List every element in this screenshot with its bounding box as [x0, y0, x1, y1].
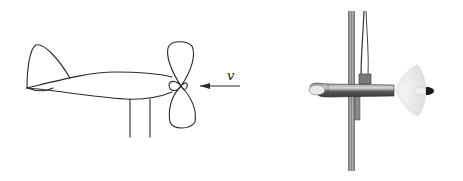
connector	[359, 74, 371, 84]
cable-1	[361, 11, 364, 78]
flow-arrow-head	[200, 83, 210, 89]
airplane-diagram-panel: v	[0, 0, 250, 181]
propeller-hub	[169, 81, 187, 90]
propeller-hub	[414, 87, 426, 95]
tail-fin	[27, 45, 70, 88]
fuselage-top	[27, 72, 172, 88]
probe-photo-panel	[260, 0, 463, 181]
propeller-spinner	[426, 87, 434, 95]
bracket	[355, 96, 360, 120]
cable-2	[366, 11, 368, 78]
probe-photo	[260, 0, 463, 181]
flow-velocity-label: v	[227, 68, 235, 83]
propeller-blade-lower	[169, 86, 195, 128]
probe-nose-cone	[309, 85, 325, 95]
propeller-blade-upper	[168, 42, 194, 86]
airplane-diagram: v	[0, 0, 250, 181]
